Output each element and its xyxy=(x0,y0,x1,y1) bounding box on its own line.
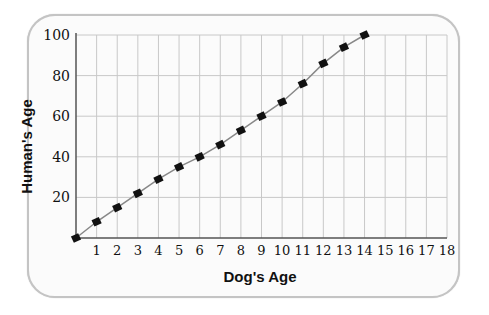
x-tick-label: 9 xyxy=(257,243,265,258)
x-tick-label: 10 xyxy=(274,243,291,258)
data-point-marker xyxy=(112,203,122,213)
x-tick-label: 17 xyxy=(418,243,435,258)
y-tick-label: 100 xyxy=(43,27,70,43)
x-tick-label: 13 xyxy=(336,243,353,258)
data-point-marker xyxy=(174,162,184,172)
x-tick-label: 5 xyxy=(175,243,183,258)
y-axis-label: Human's Age xyxy=(18,97,35,197)
x-tick-label: 6 xyxy=(196,243,204,258)
y-tick-label: 60 xyxy=(52,108,70,124)
x-axis-label: Dog's Age xyxy=(200,268,320,285)
x-tick-label: 15 xyxy=(377,243,394,258)
x-tick-label: 3 xyxy=(134,243,142,258)
x-tick-label: 1 xyxy=(92,243,100,258)
data-point-marker xyxy=(195,152,205,162)
x-tick-label: 8 xyxy=(237,243,245,258)
data-point-marker xyxy=(133,188,143,198)
y-tick-label: 40 xyxy=(52,149,70,165)
data-point-marker xyxy=(215,140,225,150)
data-point-marker xyxy=(359,30,369,40)
x-tick-label: 14 xyxy=(356,243,373,258)
data-point-marker xyxy=(236,126,246,136)
x-tick-label: 7 xyxy=(216,243,224,258)
x-tick-label: 12 xyxy=(315,243,332,258)
x-tick-label: 18 xyxy=(439,243,456,258)
x-tick-label: 16 xyxy=(398,243,415,258)
x-tick-label: 11 xyxy=(294,243,311,258)
y-tick-label: 80 xyxy=(52,68,70,84)
y-tick-label: 20 xyxy=(52,189,70,205)
x-tick-label: 2 xyxy=(113,243,121,258)
data-point-marker xyxy=(256,111,266,121)
data-point-marker xyxy=(153,174,163,184)
x-tick-label: 4 xyxy=(154,243,162,258)
